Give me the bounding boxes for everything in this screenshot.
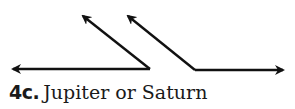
left-angle (13, 16, 150, 69)
right-angle-diagonal-ray (128, 16, 195, 70)
caption-number: 4c. (9, 81, 39, 103)
caption-text: Jupiter or Saturn (43, 81, 207, 103)
figure-caption: 4c.Jupiter or Saturn (9, 82, 207, 102)
left-angle-diagonal-ray (83, 16, 150, 69)
right-angle (128, 16, 283, 70)
